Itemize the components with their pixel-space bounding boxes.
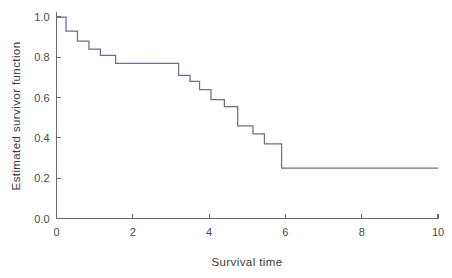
survival-plot: 0.00.20.40.60.81.0 0246810 Survival time… [0,0,452,278]
y-tick-label: 0.2 [34,172,49,184]
x-tick-label: 8 [359,226,365,238]
x-tick-label: 2 [130,226,136,238]
y-tick-label: 0.0 [34,213,49,225]
survival-step-curve [57,17,439,168]
x-tick-label: 10 [432,226,444,238]
x-tick-label: 0 [53,226,59,238]
survival-curve-figure: 0.00.20.40.60.81.0 0246810 Survival time… [0,0,452,278]
x-tick-label: 4 [206,226,212,238]
y-tick-label: 1.0 [34,11,49,23]
y-tick-label: 0.6 [34,92,49,104]
axes [57,12,439,219]
x-tick-label: 6 [282,226,288,238]
y-axis-title: Estimated survivor function [10,42,22,191]
x-axis-ticks: 0246810 [53,214,444,238]
x-axis-title: Survival time [211,256,282,268]
y-tick-label: 0.8 [34,51,49,63]
y-tick-label: 0.4 [34,132,49,144]
